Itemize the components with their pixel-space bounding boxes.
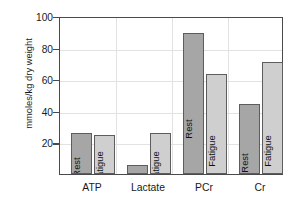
- gridline-60: [60, 81, 282, 82]
- y-tick-label-60: 60: [25, 75, 53, 86]
- x-category-label-lactate: Lactate: [131, 182, 165, 193]
- x-category-label-cr: Cr: [255, 182, 266, 193]
- bar-label-cr-rest: Rest: [239, 153, 250, 172]
- bar-label-pcr-rest: Rest: [183, 119, 194, 138]
- y-tick-label-100: 100: [25, 12, 53, 23]
- bar-atp-rest[interactable]: Rest: [71, 133, 92, 174]
- bar-cr-fatigue[interactable]: Fatigue: [262, 62, 283, 174]
- bar-label-pcr-fatigue: Fatigue: [206, 135, 217, 166]
- bar-lactate-rest[interactable]: Rest: [127, 165, 148, 174]
- bar-pcr-rest[interactable]: Rest: [183, 33, 204, 174]
- y-tick-label-40: 40: [25, 106, 53, 117]
- bar-atp-fatigue[interactable]: Fatigue: [94, 135, 115, 174]
- bar-label-atp-rest: Rest: [71, 157, 82, 174]
- bar-label-lactate-fatigue: Fatigue: [150, 151, 161, 174]
- plot-area: Rest Fatigue Rest Fatigue Rest Fatigue R…: [59, 17, 283, 175]
- bar-lactate-fatigue[interactable]: Fatigue: [150, 133, 171, 174]
- bar-pcr-fatigue[interactable]: Fatigue: [206, 74, 227, 174]
- gridline-group-2: [172, 18, 173, 174]
- x-category-label-atp: ATP: [82, 182, 101, 193]
- y-tick-label-20: 20: [25, 138, 53, 149]
- gridline-group-1: [116, 18, 117, 174]
- bar-label-cr-fatigue: Fatigue: [262, 135, 273, 166]
- gridline-80: [60, 50, 282, 51]
- x-category-label-pcr: PCr: [195, 182, 213, 193]
- y-tick-label-80: 80: [25, 43, 53, 54]
- chart-figure: mmoles/kg dry weight 100 80 60 40 20 R: [0, 0, 301, 209]
- bar-cr-rest[interactable]: Rest: [239, 104, 260, 174]
- bar-label-atp-fatigue: Fatigue: [94, 151, 105, 174]
- gridline-group-3: [228, 18, 229, 174]
